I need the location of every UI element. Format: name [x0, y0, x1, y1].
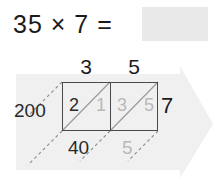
column-head-1: 5 [110, 55, 158, 79]
answer-input[interactable] [142, 7, 208, 41]
diagonal-extension-lower-0 [28, 131, 62, 165]
equation-row: 35 × 7 = [0, 0, 213, 52]
column-head-0: 3 [62, 55, 110, 79]
diagonal-sum-bottom-0[interactable]: 40 [68, 137, 89, 159]
cell-1-ones-digit[interactable]: 5 [144, 95, 154, 115]
diagonal-sum-left[interactable]: 200 [14, 100, 46, 122]
lattice-column-divider [110, 82, 111, 131]
cell-1-tens-digit[interactable]: 3 [117, 95, 127, 115]
row-multiplier: 7 [161, 94, 173, 118]
lattice-diagram: 3 5 7 2 1 3 5 200 40 5 [0, 52, 213, 182]
cell-0-tens-digit[interactable]: 2 [69, 95, 79, 115]
diagonal-sum-bottom-1[interactable]: 5 [122, 137, 133, 159]
cell-0-ones-digit[interactable]: 1 [96, 95, 106, 115]
equation-expression: 35 × 7 = [13, 9, 113, 39]
